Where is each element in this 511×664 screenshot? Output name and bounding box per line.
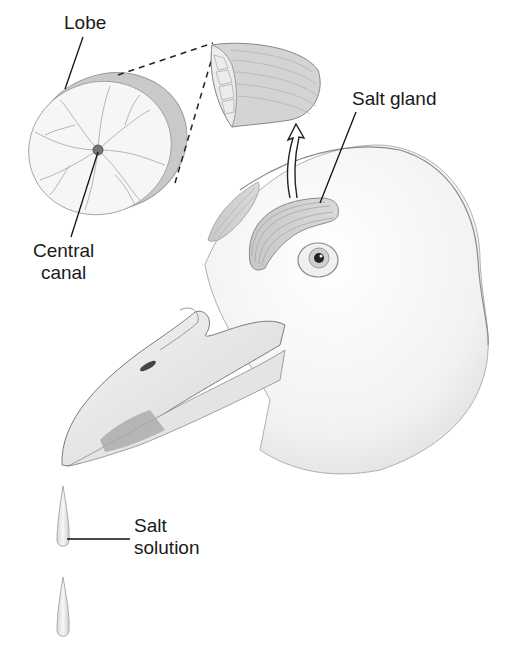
bird-beak: [62, 308, 285, 466]
bird-eye: [298, 243, 338, 277]
label-central-canal: Central canal: [33, 240, 94, 284]
label-salt-solution-line1: Salt: [134, 515, 200, 537]
lobe-cross-section: [10, 51, 207, 234]
label-central-canal-line2: canal: [33, 262, 94, 284]
label-central-canal-line1: Central: [33, 240, 94, 262]
tubule-section: [211, 43, 320, 127]
label-salt-gland: Salt gland: [352, 88, 437, 110]
salt-solution-drops: [57, 486, 69, 636]
label-salt-solution: Salt solution: [134, 515, 200, 559]
label-lobe: Lobe: [64, 12, 106, 34]
label-salt-solution-line2: solution: [134, 537, 200, 559]
